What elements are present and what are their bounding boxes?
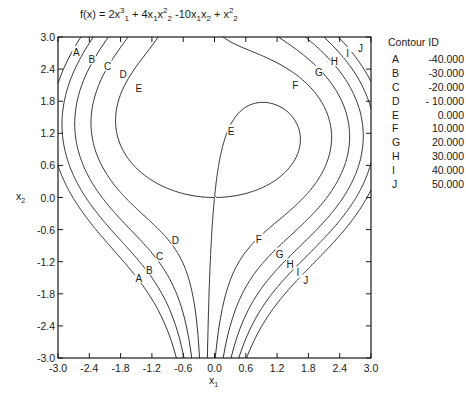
legend-key: C <box>388 81 406 95</box>
y-tick-label: 0.0 <box>40 192 55 204</box>
legend-item-A: A-40.000 <box>388 53 464 67</box>
contour-line-G <box>223 37 349 358</box>
legend-rows: A-40.000B-30.000C-20.000D- 10.000E0.000F… <box>388 53 464 192</box>
contour-label-C: C <box>104 61 111 72</box>
x-axis-label: x1 <box>209 374 218 388</box>
contour-label-J: J <box>303 275 308 286</box>
legend-value: 50.000 <box>406 178 464 192</box>
contour-line-C <box>75 37 192 358</box>
contour-label-B: B <box>89 54 96 65</box>
legend: Contour ID A-40.000B-30.000C-20.000D- 10… <box>388 36 464 192</box>
x-tick-label: -0.6 <box>174 362 192 374</box>
legend-value: 10.000 <box>406 122 464 136</box>
contour-label-A: A <box>136 273 143 284</box>
x-tick-label: 1.8 <box>301 362 316 374</box>
x-tick-label: -1.8 <box>112 362 130 374</box>
legend-item-B: B-30.000 <box>388 67 464 81</box>
y-tick-label: -2.4 <box>37 320 55 332</box>
contour-line-D <box>91 37 200 358</box>
legend-item-D: D- 10.000 <box>388 95 464 109</box>
legend-title: Contour ID <box>388 36 464 50</box>
y-tick-label: 1.8 <box>40 95 55 107</box>
contour-label-E: E <box>228 126 235 137</box>
y-tick-label: 2.4 <box>40 63 55 75</box>
contour-label-H: H <box>331 56 338 67</box>
legend-item-I: I40.000 <box>388 164 464 178</box>
legend-value: 20.000 <box>406 136 464 150</box>
legend-key: E <box>388 109 406 123</box>
legend-item-C: C-20.000 <box>388 81 464 95</box>
contour-label-E: E <box>136 83 143 94</box>
legend-key: F <box>388 122 406 136</box>
x-tick-label: 0.6 <box>238 362 253 374</box>
legend-value: - 10.000 <box>406 95 464 109</box>
contour-label-H: H <box>287 259 294 270</box>
y-tick-label: -0.6 <box>37 224 55 236</box>
contour-label-G: G <box>315 67 323 78</box>
x-tick-label: 3.0 <box>364 362 379 374</box>
x-tick-label: 2.4 <box>332 362 347 374</box>
contour-line-I <box>239 37 371 358</box>
legend-key: H <box>388 150 406 164</box>
legend-value: 40.000 <box>406 164 464 178</box>
legend-value: 0.000 <box>406 109 464 123</box>
y-tick-label: -3.0 <box>37 352 55 364</box>
contour-label-D: D <box>120 69 127 80</box>
legend-key: G <box>388 136 406 150</box>
y-tick-label: -1.8 <box>37 288 55 300</box>
legend-item-E: E0.000 <box>388 109 464 123</box>
legend-key: A <box>388 53 406 67</box>
x-tick-label: -2.4 <box>80 362 98 374</box>
contour-label-G: G <box>276 249 284 260</box>
y-tick-label: 3.0 <box>40 31 55 43</box>
contour-line-B <box>62 37 184 358</box>
legend-value: 30.000 <box>406 150 464 164</box>
contour-label-D: D <box>172 235 179 246</box>
y-tick-label: -1.2 <box>37 256 55 268</box>
legend-item-H: H30.000 <box>388 150 464 164</box>
contour-label-A: A <box>73 47 80 58</box>
y-tick-label: 1.2 <box>40 127 55 139</box>
contour-label-I: I <box>297 267 300 278</box>
contour-line-F <box>215 37 331 358</box>
x-tick-label: -1.2 <box>143 362 161 374</box>
x-tick-label: 0.0 <box>207 362 222 374</box>
contour-line-A <box>58 37 176 358</box>
x-tick-label: 1.2 <box>270 362 285 374</box>
contour-label-J: J <box>358 43 363 54</box>
legend-key: I <box>388 164 406 178</box>
contour-label-F: F <box>292 80 298 91</box>
contour-label-F: F <box>256 234 262 245</box>
legend-key: J <box>388 178 406 192</box>
legend-key: B <box>388 67 406 81</box>
legend-value: -20.000 <box>406 81 464 95</box>
legend-value: -30.000 <box>406 67 464 81</box>
legend-item-J: J50.000 <box>388 178 464 192</box>
contour-label-C: C <box>156 251 163 262</box>
contour-label-I: I <box>346 48 349 59</box>
contour-label-B: B <box>146 265 153 276</box>
contour-lines <box>58 37 371 358</box>
legend-item-F: F10.000 <box>388 122 464 136</box>
legend-key: D <box>388 95 406 109</box>
y-tick-label: 0.6 <box>40 159 55 171</box>
legend-item-G: G20.000 <box>388 136 464 150</box>
legend-value: -40.000 <box>406 53 464 67</box>
y-axis-label: x2 <box>16 190 25 204</box>
